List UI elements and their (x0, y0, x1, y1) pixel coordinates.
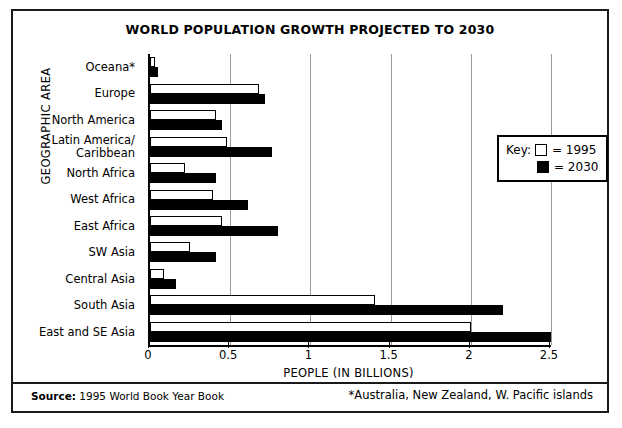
bar-group (150, 190, 551, 210)
legend-label-2030: = 2030 (554, 160, 598, 174)
category-label-line: East Africa (74, 220, 135, 233)
category-label-line: Central Asia (65, 273, 135, 286)
category-label-line: Latin America/ (52, 134, 135, 147)
bar-1995 (150, 295, 375, 305)
x-axis-tick-labels: 00.511.522.5 (148, 348, 549, 364)
bar-2030 (150, 252, 216, 262)
category-label-line: South Asia (74, 299, 135, 312)
y-axis-title: GEOGRAPHIC AREA (39, 46, 53, 206)
bar-2030 (150, 67, 158, 77)
x-axis-tick-label: 0 (144, 348, 151, 362)
source-note: Source: 1995 World Book Year Book (31, 390, 224, 402)
x-axis-tick-label: 1.5 (379, 348, 397, 362)
category-label: Europe (95, 87, 135, 100)
source-text: 1995 World Book Year Book (79, 390, 224, 402)
source-label: Source: (31, 390, 76, 402)
bar-1995 (150, 163, 185, 173)
bar-group (150, 216, 551, 236)
bar-2030 (150, 226, 278, 236)
x-axis-title: PEOPLE (IN BILLIONS) (148, 366, 549, 380)
legend: Key: = 1995 = 2030 (497, 135, 608, 182)
bar-1995 (150, 242, 190, 252)
category-label: Latin America/Caribbean (52, 134, 135, 159)
bar-1995 (150, 137, 227, 147)
footnote: *Australia, New Zealand, W. Pacific isla… (349, 388, 593, 402)
category-label-line: Oceana* (85, 61, 135, 74)
bar-group (150, 163, 551, 183)
bar-group (150, 137, 551, 157)
legend-row: = 2030 (506, 158, 598, 175)
category-label-line: West Africa (70, 193, 135, 206)
category-label-line: Caribbean (52, 147, 135, 160)
category-label-line: SW Asia (89, 246, 135, 259)
footer-divider (13, 382, 607, 384)
bar-group (150, 110, 551, 130)
legend-label-1995: = 1995 (552, 143, 596, 157)
x-axis-tick-label: 2 (465, 348, 472, 362)
x-axis-tick-label: 2.5 (540, 348, 558, 362)
legend-swatch-2030-icon (537, 161, 549, 173)
bar-group (150, 269, 551, 289)
bar-series-container (150, 54, 551, 345)
category-label-line: East and SE Asia (39, 326, 135, 339)
category-label-line: North America (52, 114, 135, 127)
bar-2030 (150, 305, 503, 315)
category-label: Oceana* (85, 61, 135, 74)
category-label: East and SE Asia (39, 326, 135, 339)
category-axis-labels: Oceana*EuropeNorth AmericaLatin America/… (13, 54, 143, 345)
bar-1995 (150, 322, 471, 332)
bar-2030 (150, 279, 176, 289)
bar-2030 (150, 120, 222, 130)
bar-1995 (150, 84, 259, 94)
category-label: West Africa (70, 193, 135, 206)
legend-row: Key: = 1995 (506, 141, 598, 158)
bar-2030 (150, 332, 551, 342)
bar-group (150, 84, 551, 104)
category-label: Central Asia (65, 273, 135, 286)
category-label-line: North Africa (66, 167, 135, 180)
bar-2030 (150, 173, 216, 183)
x-axis-tick-label: 0.5 (219, 348, 237, 362)
category-label: East Africa (74, 220, 135, 233)
category-label: South Asia (74, 299, 135, 312)
legend-key-label: Key: (506, 143, 531, 157)
category-label-line: Europe (95, 87, 135, 100)
category-label: North America (52, 114, 135, 127)
bar-group (150, 57, 551, 77)
x-axis-tick-label: 1 (305, 348, 312, 362)
category-label: North Africa (66, 167, 135, 180)
chart-title: WORLD POPULATION GROWTH PROJECTED TO 203… (13, 22, 607, 37)
bar-1995 (150, 216, 222, 226)
gridline (551, 54, 552, 345)
bar-2030 (150, 94, 265, 104)
bar-1995 (150, 57, 155, 67)
bar-group (150, 322, 551, 342)
legend-swatch-1995-icon (535, 144, 547, 156)
bar-group (150, 242, 551, 262)
bar-2030 (150, 200, 248, 210)
chart-figure: WORLD POPULATION GROWTH PROJECTED TO 203… (11, 9, 609, 413)
bar-1995 (150, 269, 164, 279)
category-label: SW Asia (89, 246, 135, 259)
bar-1995 (150, 110, 216, 120)
bar-2030 (150, 147, 272, 157)
plot-area (148, 54, 551, 347)
bar-1995 (150, 190, 213, 200)
bar-group (150, 295, 551, 315)
